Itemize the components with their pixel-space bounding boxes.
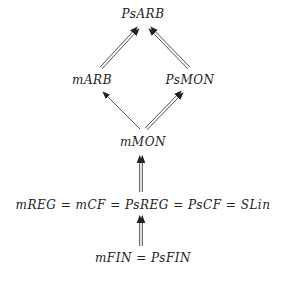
node-marb: mARB: [72, 73, 112, 87]
edge-line: [145, 91, 181, 128]
node-mreg-equivalence: mREG = mCF = PsREG = PsCF = SLin: [16, 198, 271, 212]
edge-line: [100, 27, 137, 67]
node-mfin-equivalence: mFIN = PsFIN: [95, 251, 191, 265]
edge-line: [102, 29, 139, 69]
edge-mfin-to-mreg: [140, 216, 143, 246]
node-psmon: PsMON: [165, 73, 214, 87]
edge-line: [147, 93, 183, 130]
edge-psmon-to-psarb: [149, 27, 190, 69]
edge-line: [151, 27, 190, 67]
edge-mreg-to-mmon: [140, 156, 143, 192]
node-mmon: mMON: [120, 135, 166, 149]
edge-line: [149, 29, 188, 69]
edge-marb-to-psarb: [100, 27, 139, 69]
edge-mmon-to-psmon: [145, 91, 183, 130]
edge-mmon-to-marb: [103, 92, 140, 129]
edge-line: [103, 92, 140, 129]
node-psarb: PsARB: [122, 7, 165, 21]
